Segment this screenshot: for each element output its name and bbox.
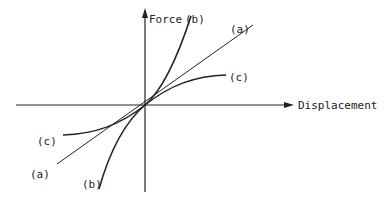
label-c-left: (c) [37,135,57,148]
label-a-bottom: (a) [30,168,50,181]
label-c-right: (c) [229,71,249,84]
x-axis-label: Displacement [298,99,377,112]
label-b-bottom: (b) [82,178,102,191]
label-b-top: (b) [185,13,205,26]
force-displacement-diagram: Force Displacement (b) (a) (c) (c) (a) (… [0,0,388,202]
x-axis-arrow-icon [284,102,294,108]
label-a-top: (a) [230,23,250,36]
axes [16,14,288,192]
y-axis-label: Force [149,13,182,26]
y-axis-arrow-icon [142,8,148,18]
